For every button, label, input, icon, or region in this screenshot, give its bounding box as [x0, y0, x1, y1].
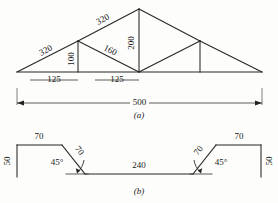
caption-figure-b: (b) — [134, 186, 145, 196]
engineering-drawing-sheet: 320 320 100 160 200 125 125 500 (a) — [0, 0, 278, 203]
drawing-canvas: 320 320 100 160 200 125 125 500 (a) — [0, 0, 278, 203]
label-web-left: 50 — [2, 156, 12, 166]
truss-rafter-upper-left — [78, 9, 139, 41]
label-post-left: 100 — [66, 52, 76, 66]
label-center-post: 200 — [126, 36, 136, 50]
label-panel-right: 125 — [110, 74, 124, 84]
label-angle-left: 45° — [51, 157, 64, 167]
truss-rafter-upper-right — [139, 9, 200, 41]
label-panel-left: 125 — [47, 74, 61, 84]
angle-arrow-left — [76, 168, 81, 173]
truss-rafter-lower-right — [200, 41, 262, 72]
label-web-right: 50 — [264, 156, 274, 166]
label-bend-left: 70 — [73, 144, 87, 158]
label-bend-right: 70 — [192, 143, 206, 157]
figure-b-section: 70 70 50 50 70 70 45° 45° 240 (b) — [2, 131, 274, 196]
label-rafter-lower-left: 320 — [37, 42, 54, 57]
caption-figure-a: (a) — [134, 110, 145, 120]
figure-a-truss: 320 320 100 160 200 125 125 500 (a) — [17, 9, 262, 120]
label-flange-left: 70 — [35, 131, 45, 141]
label-angle-right: 45° — [215, 157, 228, 167]
span-arrowhead-right — [255, 101, 262, 106]
span-arrowhead-left — [17, 101, 24, 106]
label-base: 240 — [132, 160, 146, 170]
label-flange-right: 70 — [235, 131, 245, 141]
truss-diagonal-right — [139, 41, 200, 72]
angle-arrow-right — [198, 168, 203, 173]
label-span: 500 — [133, 97, 147, 107]
label-diagonal-left: 160 — [102, 43, 119, 58]
